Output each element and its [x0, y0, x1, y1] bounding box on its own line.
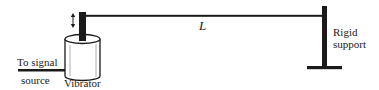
vibrator-rod — [79, 12, 86, 41]
vibrator-label: Vibrator — [64, 78, 101, 89]
rigid-support-label-line1: Rigid — [333, 27, 357, 38]
signal-wire — [18, 69, 66, 72]
rigid-support-label-line2: support — [333, 39, 366, 50]
signal-source-label-line2: source — [21, 75, 50, 86]
string — [86, 15, 323, 17]
oscillation-arrow-icon — [71, 13, 75, 28]
length-label: L — [199, 19, 206, 32]
signal-source-label-line1: To signal — [17, 57, 57, 68]
diagram-canvas — [0, 0, 379, 90]
vibrator-body — [65, 35, 100, 81]
